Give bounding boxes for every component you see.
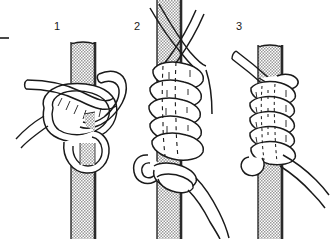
rope-3-bottom-loop (241, 157, 264, 176)
step-1-number: 1 (54, 20, 60, 32)
knot-diagram-canvas: 1 (0, 0, 334, 239)
knot-diagram-figure: 1 (0, 0, 334, 239)
step-3-number: 3 (236, 20, 242, 32)
step-2-number: 2 (134, 20, 140, 32)
